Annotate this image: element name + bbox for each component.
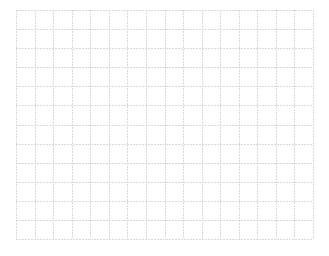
grid-paper	[16, 10, 313, 239]
grid-lines	[16, 10, 313, 239]
blank-canvas	[0, 0, 329, 256]
